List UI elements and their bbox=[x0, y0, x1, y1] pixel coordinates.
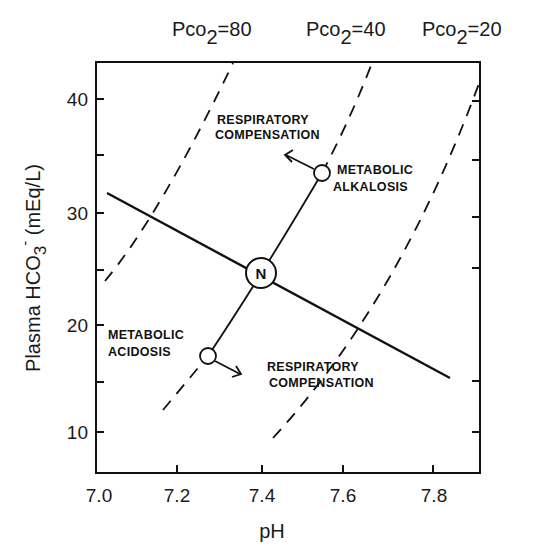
resp-comp-upper-line1: RESPIRATORY bbox=[217, 113, 309, 127]
y-tick-20: 20 bbox=[67, 315, 88, 336]
x-ticks bbox=[177, 465, 433, 473]
resp-comp-lower-line2: COMPENSATION bbox=[269, 376, 374, 390]
met-alk-line1: METABOLIC bbox=[337, 163, 413, 177]
pco2-40-label: Pco2=40 bbox=[306, 18, 386, 48]
y-ticks-left bbox=[96, 99, 104, 432]
y-ticks-right bbox=[472, 101, 480, 432]
acid-base-chart: 40 30 20 10 7.0 7.2 7.4 7.6 7.8 pH Plasm… bbox=[0, 0, 545, 554]
y-tick-10: 10 bbox=[67, 422, 88, 443]
svg-text:Plasma HCO3- (mEq/L): Plasma HCO3- (mEq/L) bbox=[16, 164, 50, 372]
met-acid-line1: METABOLIC bbox=[108, 328, 184, 342]
x-tick-7-2: 7.2 bbox=[164, 485, 190, 506]
met-acid-line2: ACIDOSIS bbox=[108, 345, 171, 359]
x-tick-7-8: 7.8 bbox=[421, 485, 447, 506]
pco2-80-label: Pco2=80 bbox=[172, 18, 252, 48]
met-alk-line2: ALKALOSIS bbox=[333, 180, 408, 194]
acidosis-point bbox=[200, 348, 216, 364]
normal-point-label: N bbox=[256, 265, 267, 282]
x-tick-7-4: 7.4 bbox=[249, 485, 276, 506]
pco2-40-isobar-upper bbox=[322, 63, 372, 173]
alkalosis-arrow bbox=[285, 150, 314, 169]
pco2-20-label: Pco2=20 bbox=[422, 18, 502, 48]
pco2-80-isobar bbox=[105, 63, 233, 281]
x-axis-title: pH bbox=[259, 520, 285, 542]
x-tick-7-0: 7.0 bbox=[86, 485, 112, 506]
resp-comp-upper-line2: COMPENSATION bbox=[215, 128, 320, 142]
acidosis-arrow bbox=[215, 361, 241, 377]
alkalosis-point bbox=[314, 165, 330, 181]
resp-comp-lower-line1: RESPIRATORY bbox=[267, 360, 359, 374]
y-axis-title: Plasma HCO3- (mEq/L) bbox=[16, 164, 50, 372]
x-tick-7-6: 7.6 bbox=[330, 485, 356, 506]
pco2-40-isobar-lower bbox=[163, 356, 208, 410]
y-tick-40: 40 bbox=[67, 89, 88, 110]
y-tick-30: 30 bbox=[67, 203, 88, 224]
